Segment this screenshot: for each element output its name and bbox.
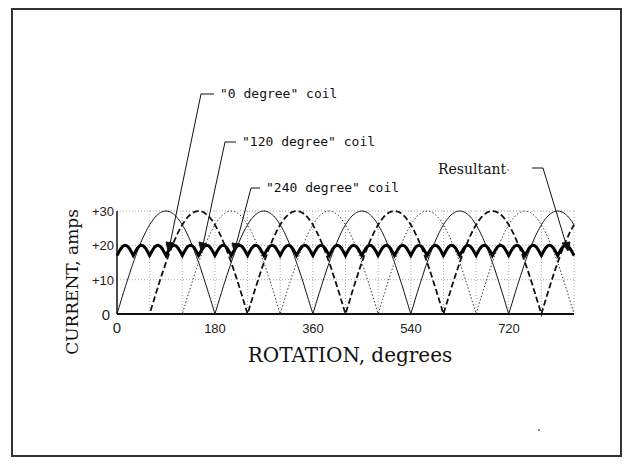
annotation-arrows (166, 94, 570, 251)
annotation-resultant: Resultant (438, 161, 506, 177)
speck-2 (538, 429, 540, 431)
annotation-0-degree-coil: "0 degree" coil (220, 86, 337, 101)
x-axis-title: ROTATION, degrees (248, 343, 453, 367)
xtick-0: 0 (113, 319, 121, 336)
annotation-120-degree-coil: "120 degree" coil (242, 134, 375, 149)
ytick-10: +10 (92, 273, 114, 288)
chart: +30 +20 +10 0 0 180 360 540 720 ROTATION… (0, 0, 637, 470)
ytick-20: +20 (92, 238, 114, 253)
xtick-180: 180 (204, 321, 226, 336)
ytick-0: 0 (102, 306, 110, 323)
xtick-540: 540 (400, 321, 422, 336)
xtick-360: 360 (302, 321, 324, 336)
y-axis-title: CURRENT, amps (62, 209, 82, 355)
grid (117, 211, 574, 314)
annotation-240-degree-coil: "240 degree" coil (266, 180, 399, 195)
xtick-720: 720 (498, 321, 520, 336)
speck (507, 169, 509, 171)
ytick-30: +30 (92, 204, 114, 219)
